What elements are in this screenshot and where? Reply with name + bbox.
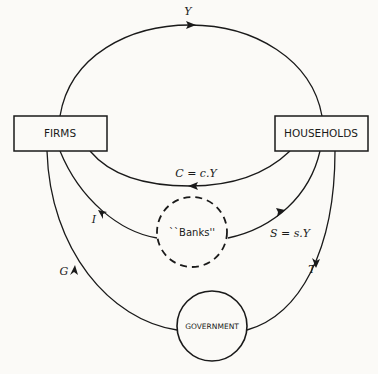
consumption-flow-label: C = c.Y <box>175 167 218 180</box>
saving-arrow-icon <box>276 208 285 217</box>
income-flow-label: Y <box>184 5 193 18</box>
government-label: GOVERNMENT <box>185 322 239 331</box>
investment-flow-line <box>60 151 157 238</box>
taxes-flow-line <box>247 151 335 330</box>
households-label: HOUSEHOLDS <box>284 127 358 139</box>
government-spending-arrow-icon <box>70 265 78 275</box>
investment-arrow-icon <box>98 210 107 219</box>
investment-flow-label: I <box>91 213 97 226</box>
banks-label: ``Banks'' <box>169 227 215 238</box>
saving-flow-label: S = s.Y <box>270 227 312 240</box>
government-spending-flow-label: G <box>60 265 69 278</box>
circular-flow-diagram: Y C = c.Y ``Banks'' I S = s.Y G T GOVERN… <box>0 0 378 374</box>
income-flow-line <box>60 25 322 116</box>
firms-label: FIRMS <box>44 127 76 139</box>
